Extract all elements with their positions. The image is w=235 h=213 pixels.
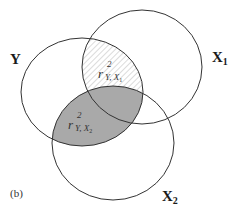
venn-diagram: Y X1 X2 r 2 Y, X1 r 2 Y, X2 (b) — [0, 0, 235, 213]
label-r2-y-x2-sup: 2 — [77, 110, 82, 120]
region-y-x2-shaded — [52, 86, 174, 200]
panel-label: (b) — [10, 187, 23, 200]
label-r2-y-x1-sup: 2 — [107, 59, 112, 69]
label-y: Y — [10, 51, 21, 67]
label-x1: X1 — [212, 49, 228, 67]
label-x2: X2 — [162, 188, 178, 206]
